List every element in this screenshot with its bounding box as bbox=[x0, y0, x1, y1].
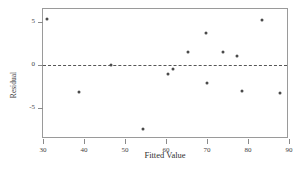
y-tick bbox=[38, 65, 43, 66]
data-point bbox=[205, 31, 208, 34]
residual-plot-figure: Residual 30405060708090 50-5 Fitted Valu… bbox=[0, 0, 302, 170]
y-tick bbox=[38, 108, 43, 109]
data-point bbox=[221, 51, 224, 54]
x-tick bbox=[125, 139, 126, 144]
x-tick bbox=[207, 139, 208, 144]
zero-reference-line bbox=[43, 65, 287, 66]
y-tick-label: -5 bbox=[17, 103, 35, 111]
data-point bbox=[278, 91, 281, 94]
data-point bbox=[78, 90, 81, 93]
data-point bbox=[186, 51, 189, 54]
data-point bbox=[260, 19, 263, 22]
y-tick bbox=[38, 22, 43, 23]
x-tick bbox=[43, 139, 44, 144]
y-tick-label: 5 bbox=[17, 17, 35, 25]
data-point bbox=[167, 73, 170, 76]
data-point bbox=[206, 81, 209, 84]
data-point bbox=[109, 63, 112, 66]
x-tick bbox=[166, 139, 167, 144]
x-tick bbox=[248, 139, 249, 144]
x-axis-label: Fitted Value bbox=[42, 150, 288, 160]
x-tick bbox=[289, 139, 290, 144]
data-point bbox=[241, 90, 244, 93]
data-point bbox=[236, 55, 239, 58]
data-point bbox=[172, 68, 175, 71]
plot-area: 30405060708090 bbox=[42, 8, 288, 138]
y-tick-label: 0 bbox=[17, 60, 35, 68]
data-point bbox=[141, 127, 144, 130]
data-point bbox=[46, 17, 49, 20]
x-tick bbox=[84, 139, 85, 144]
